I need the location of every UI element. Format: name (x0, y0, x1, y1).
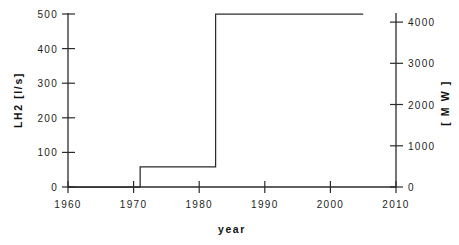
right-ticklabel-3000: 3000 (408, 58, 435, 69)
left-ticklabel-400: 400 (37, 44, 58, 55)
left-ticklabel-100: 100 (37, 147, 58, 158)
chart-figure: 500 400 300 200 100 0 LH2 [l/s] 4000 300… (0, 0, 459, 245)
left-ticklabel-200: 200 (37, 113, 58, 124)
x-axis: 1960 1970 1980 1990 2000 2010 year (54, 181, 409, 235)
left-ticklabel-300: 300 (37, 78, 58, 89)
x-ticklabel-2000: 2000 (317, 199, 344, 210)
right-ticklabel-2000: 2000 (408, 100, 435, 111)
step-chart: 500 400 300 200 100 0 LH2 [l/s] 4000 300… (0, 0, 459, 245)
right-axis-title: [ M W ] (439, 80, 451, 126)
right-ticklabel-1000: 1000 (408, 141, 435, 152)
left-ticklabel-0: 0 (51, 182, 58, 193)
left-ticklabel-500: 500 (37, 9, 58, 20)
left-axis: 500 400 300 200 100 0 LH2 [l/s] (12, 9, 75, 193)
data-series-lh2 (68, 14, 363, 187)
x-ticklabel-1970: 1970 (120, 199, 147, 210)
x-ticklabel-2010: 2010 (382, 199, 409, 210)
left-axis-title: LH2 [l/s] (12, 72, 24, 128)
right-ticklabel-4000: 4000 (408, 17, 435, 28)
x-ticklabel-1990: 1990 (251, 199, 278, 210)
right-axis: 4000 3000 2000 1000 0 [ M W ] (390, 13, 451, 193)
right-ticklabel-0: 0 (408, 182, 415, 193)
x-ticklabel-1980: 1980 (185, 199, 212, 210)
x-axis-title: year (218, 223, 246, 235)
x-ticklabel-1960: 1960 (54, 199, 81, 210)
